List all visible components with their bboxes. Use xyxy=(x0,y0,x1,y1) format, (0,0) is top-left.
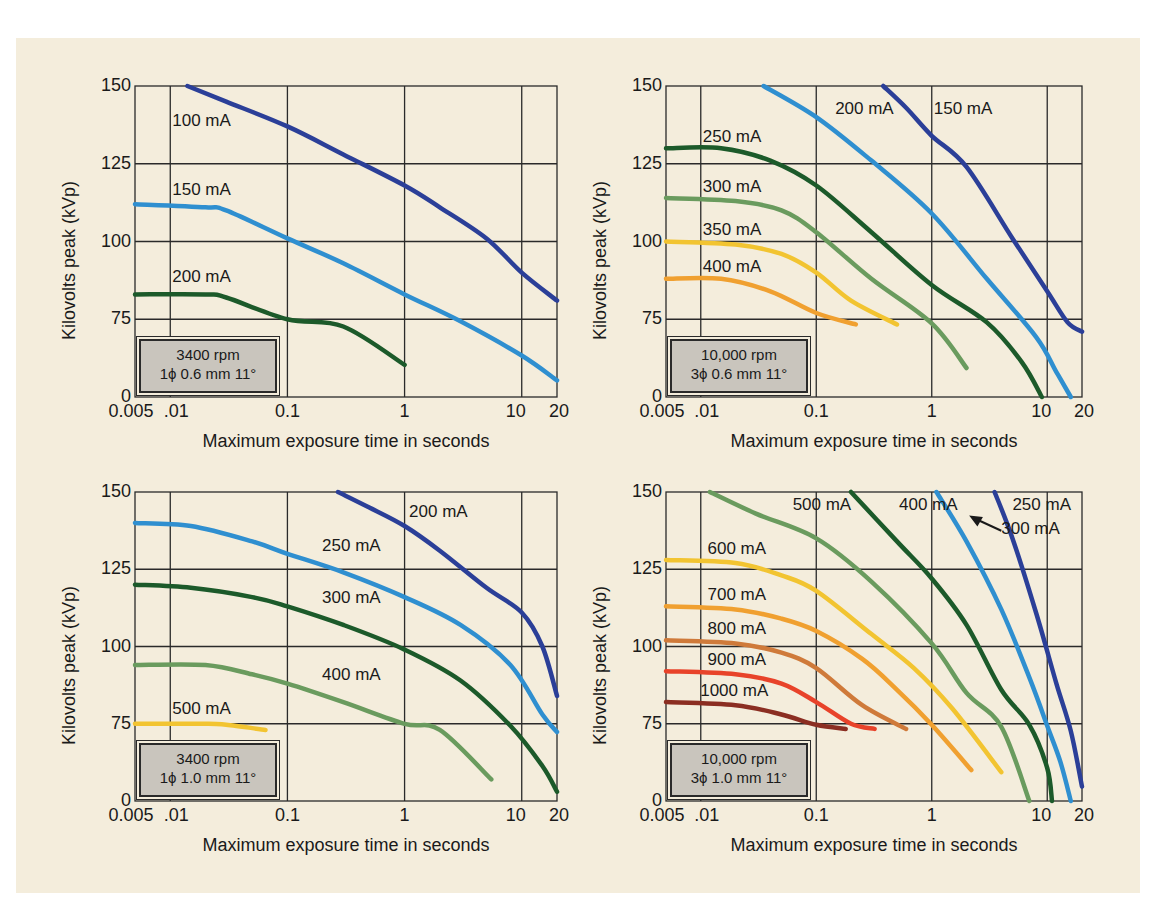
series-label: 600 mA xyxy=(708,539,767,559)
y-tick-label: 150 xyxy=(622,481,662,502)
x-tick-label: 20 xyxy=(1054,805,1114,826)
series-label: 400 mA xyxy=(899,495,958,515)
plot-area xyxy=(0,0,1155,909)
arrow-icon xyxy=(971,517,1001,531)
x-tick-label: 1 xyxy=(902,805,962,826)
series-line-900-ma xyxy=(666,671,875,729)
x-tick-label: .01 xyxy=(677,805,737,826)
series-label: 800 mA xyxy=(708,619,767,639)
spec-line-2: 3ϕ 1.0 mm 11° xyxy=(672,768,806,787)
series-label: 250 mA xyxy=(1012,495,1071,515)
y-tick-label: 100 xyxy=(622,636,662,657)
series-label: 700 mA xyxy=(708,585,767,605)
spec-box: 10,000 rpm3ϕ 1.0 mm 11° xyxy=(670,743,808,797)
y-tick-label: 125 xyxy=(622,558,662,579)
x-tick-label: 0.1 xyxy=(786,805,846,826)
y-axis-title: Kilovolts peak (kVp) xyxy=(590,585,611,744)
series-label: 500 mA xyxy=(793,495,852,515)
annotation-label: 300 mA xyxy=(1001,519,1060,539)
series-label: 900 mA xyxy=(708,650,767,670)
spec-line-1: 10,000 rpm xyxy=(672,749,806,768)
x-axis-title: Maximum exposure time in seconds xyxy=(666,835,1082,856)
series-label: 1000 mA xyxy=(700,681,768,701)
y-tick-label: 75 xyxy=(622,713,662,734)
